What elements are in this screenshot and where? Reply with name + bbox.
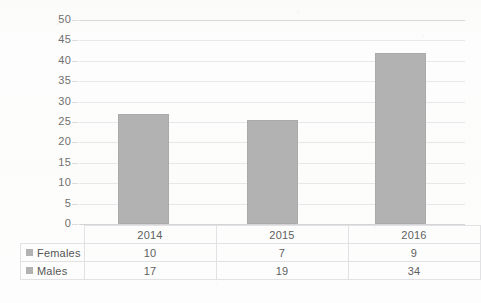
gridline-45 bbox=[79, 40, 465, 41]
table-header-2015: 2015 bbox=[216, 226, 348, 244]
cell-males-2014: 17 bbox=[84, 262, 216, 280]
y-axis-tickmark-50 bbox=[72, 20, 78, 21]
y-axis-tickmark-20 bbox=[72, 142, 78, 143]
y-axis-tickmark-40 bbox=[72, 61, 78, 62]
y-axis-tickmark-45 bbox=[72, 40, 78, 41]
bar-2015 bbox=[247, 120, 298, 224]
chart-figure: 05101520253035404550 2014 2015 2016 Fema… bbox=[0, 0, 481, 303]
table-corner-cell bbox=[21, 226, 85, 244]
table-header-2014: 2014 bbox=[84, 226, 216, 244]
legend-label-males: Males bbox=[37, 265, 67, 277]
y-axis-label-45: 45 bbox=[37, 33, 71, 45]
y-axis-tickmark-15 bbox=[72, 163, 78, 164]
data-table-body: 2014 2015 2016 Females 10 7 9 Males 17 1… bbox=[21, 226, 481, 280]
table-row-males: Males 17 19 34 bbox=[21, 262, 481, 280]
y-axis-tickmark-5 bbox=[72, 204, 78, 205]
bar-2016 bbox=[375, 53, 426, 224]
y-axis-tickmark-10 bbox=[72, 183, 78, 184]
legend-swatch-males-icon bbox=[26, 267, 33, 274]
y-axis-label-30: 30 bbox=[37, 95, 71, 107]
cell-females-2014: 10 bbox=[84, 244, 216, 262]
data-table: 2014 2015 2016 Females 10 7 9 Males 17 1… bbox=[20, 225, 481, 280]
legend-swatch-females-icon bbox=[26, 249, 33, 256]
table-header-2016: 2016 bbox=[348, 226, 480, 244]
legend-label-females: Females bbox=[37, 247, 81, 259]
y-axis-label-20: 20 bbox=[37, 135, 71, 147]
legend-item-females[interactable]: Females bbox=[21, 244, 85, 262]
cell-females-2015: 7 bbox=[216, 244, 348, 262]
cell-males-2015: 19 bbox=[216, 262, 348, 280]
table-row-females: Females 10 7 9 bbox=[21, 244, 481, 262]
cell-males-2016: 34 bbox=[348, 262, 480, 280]
y-axis-label-15: 15 bbox=[37, 156, 71, 168]
table-row-header: 2014 2015 2016 bbox=[21, 226, 481, 244]
y-axis-label-25: 25 bbox=[37, 115, 71, 127]
y-axis-label-10: 10 bbox=[37, 176, 71, 188]
y-axis-label-5: 5 bbox=[37, 197, 71, 209]
y-axis-tickmark-35 bbox=[72, 81, 78, 82]
y-axis-label-35: 35 bbox=[37, 74, 71, 86]
plot-area: 05101520253035404550 bbox=[79, 20, 465, 224]
y-axis-tickmark-25 bbox=[72, 122, 78, 123]
y-axis-label-50: 50 bbox=[37, 13, 71, 25]
gridline-50 bbox=[79, 20, 465, 21]
y-axis-label-40: 40 bbox=[37, 54, 71, 66]
cell-females-2016: 9 bbox=[348, 244, 480, 262]
bar-2014 bbox=[118, 114, 169, 224]
legend-item-males[interactable]: Males bbox=[21, 262, 85, 280]
y-axis-tickmark-30 bbox=[72, 102, 78, 103]
